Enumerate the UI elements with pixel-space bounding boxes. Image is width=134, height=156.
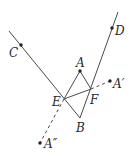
label-a-prime: A′	[112, 77, 125, 91]
label-a: A	[75, 56, 85, 70]
label-e: E	[51, 95, 61, 109]
segment-a-e	[64, 71, 80, 99]
point-c	[19, 43, 22, 46]
label-c: C	[9, 46, 18, 60]
point-a-double-prime	[38, 141, 41, 144]
dashed-f-a-prime	[91, 81, 110, 89]
point-d	[110, 26, 113, 29]
geometry-diagram: C D A A′ E F B A″	[0, 0, 134, 156]
segment-a-f	[80, 71, 91, 89]
label-d: D	[114, 24, 125, 38]
point-a-prime	[108, 79, 111, 82]
label-f: F	[89, 93, 99, 107]
label-a-double-prime: A″	[43, 137, 58, 151]
label-b: B	[75, 121, 85, 135]
